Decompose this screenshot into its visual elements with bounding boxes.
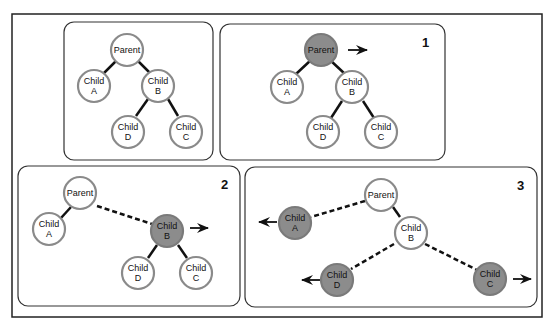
svg-text:Parent: Parent: [368, 190, 395, 200]
svg-text:Parent: Parent: [114, 45, 141, 55]
node-child-d-visited: Child D: [321, 264, 353, 296]
svg-text:Child: Child: [327, 270, 348, 280]
node-child-b-visited: Child B: [151, 215, 183, 247]
node-child-c: Child C: [365, 116, 397, 148]
svg-text:Parent: Parent: [67, 188, 94, 198]
svg-text:A: A: [284, 87, 290, 97]
svg-text:C: C: [378, 132, 385, 142]
node-child-a: Child A: [271, 71, 303, 103]
svg-text:Child: Child: [371, 122, 392, 132]
svg-text:C: C: [487, 279, 494, 289]
svg-text:Child: Child: [157, 221, 178, 231]
node-child-c-visited: Child C: [474, 263, 506, 295]
step-number: 2: [221, 177, 228, 192]
node-parent-visited: Parent: [305, 34, 337, 66]
svg-text:Child: Child: [128, 263, 149, 273]
svg-text:D: D: [125, 132, 132, 142]
svg-text:Child: Child: [401, 223, 422, 233]
node-parent: Parent: [64, 177, 96, 209]
svg-text:Child: Child: [118, 122, 139, 132]
node-child-d: Child D: [122, 257, 154, 289]
svg-text:A: A: [91, 86, 97, 96]
node-parent: Parent: [111, 34, 143, 66]
svg-text:D: D: [135, 273, 142, 283]
svg-text:Child: Child: [342, 77, 363, 87]
node-child-b: Child B: [336, 71, 368, 103]
svg-text:B: B: [349, 87, 355, 97]
svg-text:C: C: [193, 273, 200, 283]
node-child-d: Child D: [112, 116, 144, 148]
step-number: 3: [517, 178, 524, 193]
node-child-a-visited: Child A: [279, 207, 311, 239]
node-child-c: Child C: [180, 257, 212, 289]
svg-text:Child: Child: [186, 263, 207, 273]
node-child-a: Child A: [78, 70, 110, 102]
panel-step-1: 1 Parent Child A Child B Child D Child C: [220, 24, 445, 160]
svg-text:C: C: [183, 132, 190, 142]
diagram-canvas: Parent Child A Child B Child D Child C 1: [0, 0, 554, 326]
svg-text:Child: Child: [480, 269, 501, 279]
panel-step-2: 2 Parent Child A Child B Child D Child C: [18, 166, 240, 306]
svg-text:Child: Child: [285, 213, 306, 223]
panel-initial-tree: Parent Child A Child B Child D Child C: [64, 22, 213, 160]
svg-text:Child: Child: [176, 122, 197, 132]
svg-text:Child: Child: [277, 77, 298, 87]
svg-text:Parent: Parent: [308, 45, 335, 55]
svg-text:A: A: [46, 229, 52, 239]
svg-text:B: B: [155, 86, 161, 96]
node-parent: Parent: [365, 179, 397, 211]
node-child-b: Child B: [395, 217, 427, 249]
node-child-d: Child D: [307, 116, 339, 148]
svg-text:Child: Child: [39, 219, 60, 229]
svg-text:Child: Child: [84, 76, 105, 86]
node-child-a: Child A: [33, 213, 65, 245]
svg-text:B: B: [164, 231, 170, 241]
panel-step-3: 3 Parent Child A Child B Child D: [245, 167, 537, 307]
svg-text:B: B: [408, 233, 414, 243]
svg-text:A: A: [292, 223, 298, 233]
svg-text:Child: Child: [148, 76, 169, 86]
svg-text:D: D: [320, 132, 327, 142]
node-child-c: Child C: [170, 116, 202, 148]
node-child-b: Child B: [142, 70, 174, 102]
svg-text:D: D: [334, 280, 341, 290]
svg-text:Child: Child: [313, 122, 334, 132]
step-number: 1: [422, 35, 429, 50]
